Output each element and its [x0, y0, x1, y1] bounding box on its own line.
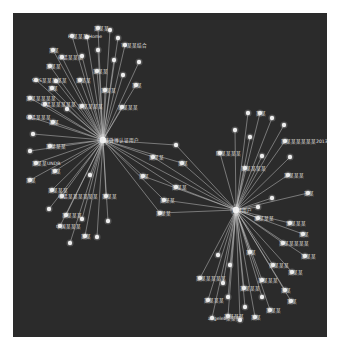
graph-edge — [236, 210, 240, 320]
graph-node[interactable] — [254, 203, 261, 210]
node-dot — [96, 48, 100, 52]
graph-node[interactable]: 中国某某某 — [56, 222, 81, 229]
node-dot — [80, 54, 84, 58]
graph-node[interactable] — [86, 171, 93, 178]
graph-node[interactable]: 某某某某 — [284, 171, 304, 178]
graph-edge — [56, 81, 103, 140]
graph-node[interactable]: 某某 — [48, 84, 58, 91]
graph-node[interactable]: 某某 — [256, 109, 266, 116]
graph-node[interactable] — [119, 71, 126, 78]
graph-node[interactable] — [93, 233, 100, 240]
graph-node[interactable]: 陈某某某某 — [216, 149, 241, 156]
graph-node[interactable]: 某某某 — [76, 76, 91, 83]
graph-edge — [67, 109, 103, 140]
graph-node[interactable] — [63, 105, 70, 112]
graph-node[interactable]: 某某 — [178, 159, 188, 166]
graph-node[interactable] — [29, 130, 36, 137]
node-dot — [80, 217, 84, 221]
graph-node[interactable] — [268, 194, 275, 201]
graph-node[interactable] — [114, 34, 121, 41]
node-dot — [47, 207, 51, 211]
graph-node[interactable] — [110, 56, 117, 63]
graph-node[interactable]: 某某某某 — [204, 296, 224, 303]
node-dot — [54, 79, 58, 83]
graph-node[interactable] — [135, 58, 142, 65]
graph-node[interactable]: 某某某UNDR — [32, 159, 61, 166]
graph-node[interactable]: 某某某 — [160, 196, 175, 203]
graph-edge — [103, 140, 108, 221]
graph-node[interactable]: 某某 — [51, 167, 61, 174]
graph-node[interactable] — [280, 121, 287, 128]
graph-node[interactable] — [258, 152, 265, 159]
graph-node[interactable]: 某某 — [49, 46, 59, 53]
graph-node[interactable] — [214, 251, 221, 258]
node-dot — [121, 73, 125, 77]
graph-node[interactable]: 某某某某 — [48, 186, 68, 193]
graph-node[interactable]: 某某某某某 — [78, 102, 103, 109]
graph-node[interactable]: 某某某 — [102, 192, 117, 199]
graph-node[interactable]: 电话某某某某某 — [41, 100, 76, 107]
graph-node[interactable]: 某某某 — [156, 209, 171, 216]
graph-node[interactable]: 某某某某某 — [241, 164, 266, 171]
graph-node[interactable] — [78, 215, 85, 222]
graph-node[interactable] — [231, 126, 238, 133]
graph-node[interactable] — [106, 26, 113, 33]
graph-node[interactable]: 某某某 — [266, 306, 281, 313]
graph-node[interactable]: 某某某 — [172, 183, 187, 190]
graph-node[interactable]: 某某某 — [288, 268, 303, 275]
graph-node[interactable]: 某某某 — [301, 252, 316, 259]
node-dot — [226, 295, 230, 299]
graph-node[interactable] — [258, 293, 265, 300]
graph-node[interactable] — [244, 109, 251, 116]
graph-node[interactable] — [66, 239, 73, 246]
node-dot — [137, 60, 141, 64]
graph-node[interactable]: 某某 — [26, 176, 36, 183]
graph-node[interactable]: 某某某 — [46, 62, 61, 69]
graph-node[interactable]: 某某 — [132, 81, 142, 88]
graph-node[interactable] — [246, 133, 253, 140]
graph-node[interactable]: 某某某某 — [46, 142, 66, 149]
graph-node[interactable]: 电话某某某某某某 — [58, 192, 98, 199]
graph-node[interactable] — [83, 33, 90, 40]
graph-node[interactable]: angeleb某某某 — [208, 314, 242, 321]
graph-node[interactable]: 某某某某 — [118, 103, 138, 110]
graph-edge — [176, 187, 236, 210]
graph-node[interactable]: 某某某某某某 — [279, 239, 309, 246]
graph-node[interactable] — [104, 217, 111, 224]
graph-node[interactable]: 某某某某 — [286, 219, 306, 226]
graph-node[interactable]: 某某某某 — [240, 284, 260, 291]
graph-node[interactable] — [45, 205, 52, 212]
graph-node[interactable]: 某某 — [304, 189, 314, 196]
graph-node[interactable] — [219, 279, 226, 286]
graph-node[interactable]: 某某 — [299, 230, 309, 237]
graph-node[interactable]: 某某 — [81, 232, 91, 239]
graph-node[interactable] — [78, 52, 85, 59]
graph-node[interactable]: TT某某结合 — [120, 41, 147, 48]
graph-node[interactable] — [94, 46, 101, 53]
graph-node[interactable] — [268, 114, 275, 121]
graph-node[interactable]: 电话某某某 — [26, 113, 51, 120]
graph-node[interactable]: 某某某 — [101, 86, 116, 93]
graph-node[interactable] — [241, 303, 248, 310]
graph-node[interactable]: 某某 — [281, 286, 291, 293]
graph-node[interactable] — [52, 77, 59, 84]
graph-node[interactable]: 某某某 — [149, 153, 164, 160]
graph-node[interactable] — [286, 153, 293, 160]
graph-node[interactable]: 某某某某 — [254, 214, 274, 221]
graph-node[interactable]: 某某 — [251, 313, 261, 320]
graph-node[interactable] — [226, 261, 233, 268]
graph-node[interactable]: 某某某某某某某2013 — [281, 137, 328, 144]
graph-edge — [49, 140, 103, 209]
graph-node[interactable]: 某某某某 — [269, 261, 289, 268]
graph-node[interactable] — [172, 141, 179, 148]
graph-node[interactable] — [26, 147, 33, 154]
graph-node[interactable]: 某某 — [49, 118, 59, 125]
graph-node[interactable]: 某某 — [139, 172, 149, 179]
graph-node[interactable]: 某某某某 — [258, 276, 278, 283]
graph-node[interactable]: 某某 — [287, 297, 297, 304]
graph-node[interactable] — [224, 293, 231, 300]
graph-node[interactable]: 某某某 — [93, 67, 108, 74]
graph-node[interactable]: SMS某某某某某 — [32, 76, 67, 83]
graph-node[interactable]: 某某 — [246, 248, 256, 255]
graph-node[interactable]: 某某某某某某 — [26, 94, 56, 101]
